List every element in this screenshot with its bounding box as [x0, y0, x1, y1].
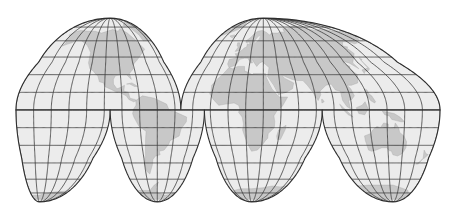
- map-lobes: [16, 18, 440, 202]
- world-map: [0, 0, 458, 220]
- ocean-fill: [16, 110, 110, 202]
- interrupted-goode-map: [0, 0, 458, 220]
